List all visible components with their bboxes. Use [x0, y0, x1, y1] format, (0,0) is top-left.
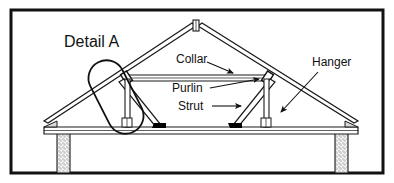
wall-left-body — [57, 133, 70, 173]
ridge-post — [193, 20, 199, 31]
hanger-label: Hanger — [312, 55, 351, 69]
tie-beam — [44, 127, 358, 134]
detail-title: Detail A — [64, 33, 119, 50]
strut-left-shoe — [152, 123, 166, 128]
wall-right-body — [335, 133, 348, 173]
wall-right — [335, 133, 348, 173]
roof-truss-diagram: Detail A Collar Purlin Strut Hanger — [0, 0, 394, 183]
strut-right-shoe — [228, 123, 242, 128]
wall-left — [57, 133, 70, 173]
collar-label: Collar — [176, 52, 207, 66]
strut-label: Strut — [178, 99, 204, 113]
figure-canvas: Detail A Collar Purlin Strut Hanger — [0, 0, 394, 183]
purlin-label: Purlin — [172, 81, 203, 95]
